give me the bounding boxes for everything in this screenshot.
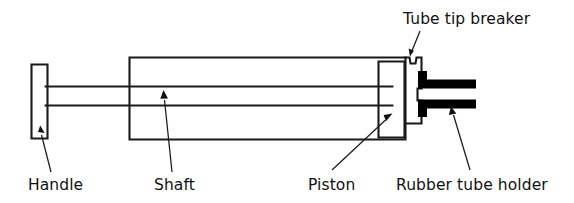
handle-leader [42, 135, 52, 172]
syringe-diagram-canvas: Tube tip breaker Handle Shaft Piston Rub… [0, 0, 574, 203]
rubber-tube-holder-leader [454, 115, 471, 170]
label-tube-tip-breaker: Tube tip breaker [402, 10, 531, 28]
rubber-tube-holder-lower-jaw [418, 100, 476, 118]
handle-outline [32, 65, 48, 139]
piston-leader [332, 120, 386, 170]
tube-tip-breaker-arrowhead [409, 49, 414, 57]
shaft-leader [165, 100, 173, 172]
shaft-arrowhead [160, 90, 168, 99]
piston-outline [379, 62, 405, 138]
handle-arrowhead [38, 126, 45, 133]
label-piston: Piston [308, 176, 355, 194]
label-handle: Handle [28, 176, 83, 194]
barrel-outline [130, 58, 406, 140]
label-rubber-tube-holder: Rubber tube holder [396, 176, 548, 194]
label-shaft: Shaft [154, 176, 195, 194]
syringe-diagram: Tube tip breaker Handle Shaft Piston Rub… [0, 0, 574, 203]
tube-tip-breaker-leader [412, 31, 421, 52]
rubber-tube-holder-upper-jaw [418, 71, 476, 89]
